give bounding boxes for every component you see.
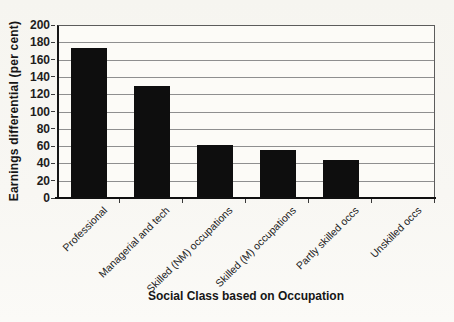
- y-tick-mark-40: [51, 163, 55, 164]
- y-tick-label-140: 140: [8, 70, 50, 84]
- x-tick-mark-2: [182, 199, 183, 203]
- y-tick-label-80: 80: [8, 122, 50, 136]
- x-tick-label-unskilled-occs: Unskilled occs: [368, 204, 424, 260]
- gridline-120: [59, 94, 434, 95]
- gridline-40: [59, 163, 434, 164]
- bar-chart: Earnings differential (per cent) Social …: [0, 0, 454, 322]
- gridline-80: [59, 129, 434, 130]
- y-tick-label-200: 200: [8, 18, 50, 32]
- y-tick-mark-160: [51, 59, 55, 60]
- x-tick-mark-4: [308, 199, 309, 203]
- y-tick-label-40: 40: [8, 156, 50, 170]
- y-tick-label-0: 0: [8, 191, 50, 205]
- x-tick-mark-1: [119, 199, 120, 203]
- x-tick-mark-6: [434, 199, 435, 203]
- y-tick-mark-80: [51, 128, 55, 129]
- gridline-140: [59, 77, 434, 78]
- y-tick-label-180: 180: [8, 35, 50, 49]
- gridline-100: [59, 112, 434, 113]
- bar-skilled-m-occupations: [260, 150, 296, 198]
- y-tick-mark-60: [51, 146, 55, 147]
- bar-managerial-and-tech: [134, 86, 170, 198]
- x-tick-label-professional: Professional: [60, 204, 109, 253]
- y-tick-mark-120: [51, 94, 55, 95]
- y-tick-label-100: 100: [8, 105, 50, 119]
- x-axis-title: Social Class based on Occupation: [57, 289, 435, 303]
- gridline-20: [59, 181, 434, 182]
- y-tick-label-120: 120: [8, 87, 50, 101]
- gridline-180: [59, 42, 434, 43]
- y-tick-mark-200: [51, 25, 55, 26]
- bar-skilled-nm-occupations: [197, 145, 233, 198]
- y-tick-label-20: 20: [8, 174, 50, 188]
- y-tick-mark-0: [51, 198, 55, 199]
- y-tick-label-160: 160: [8, 53, 50, 67]
- y-tick-label-60: 60: [8, 139, 50, 153]
- x-tick-mark-5: [371, 199, 372, 203]
- y-tick-mark-140: [51, 76, 55, 77]
- y-tick-mark-100: [51, 111, 55, 112]
- gridline-160: [59, 60, 434, 61]
- y-tick-mark-180: [51, 42, 55, 43]
- y-tick-mark-20: [51, 180, 55, 181]
- bar-partly-skilled-occs: [323, 160, 359, 198]
- x-tick-label-partly-skilled-occs: Partly skilled occs: [293, 204, 360, 271]
- gridline-60: [59, 146, 434, 147]
- bar-professional: [71, 48, 107, 198]
- x-tick-mark-3: [245, 199, 246, 203]
- plot-area: [57, 25, 435, 198]
